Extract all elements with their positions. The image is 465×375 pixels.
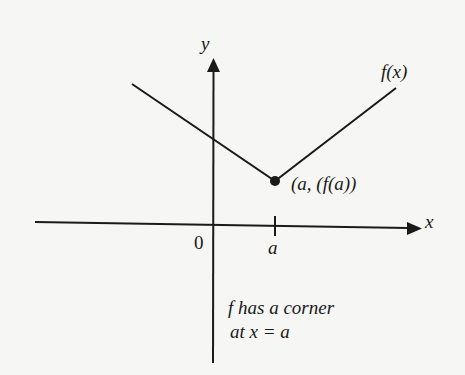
diagram-canvas: [0, 0, 465, 375]
tick-a-label: a: [268, 238, 278, 257]
caption-line-2: at x = a: [230, 322, 290, 341]
y-axis: [213, 72, 214, 363]
caption-line-1: f has a corner: [228, 298, 334, 317]
y-axis-label: y: [201, 34, 209, 53]
function-curve: [132, 84, 396, 181]
x-axis: [35, 222, 408, 228]
x-axis-label: x: [425, 212, 433, 231]
y-axis-arrow-icon: [207, 58, 220, 72]
function-label: f(x): [381, 62, 407, 81]
origin-label: 0: [194, 233, 204, 252]
corner-function-diagram: y x 0 a f(x) (a, (f(a)) f has a corner a…: [0, 0, 465, 375]
corner-point: [270, 176, 280, 186]
point-label: (a, (f(a)): [291, 174, 356, 193]
x-axis-arrow-icon: [407, 222, 422, 235]
